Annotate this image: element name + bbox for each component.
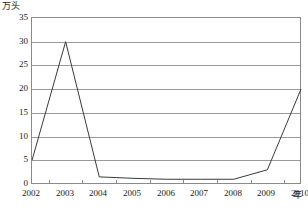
y-axis-tick-label: 35 <box>2 13 28 22</box>
y-axis-tick-labels: 05101520253035 <box>0 17 28 184</box>
x-axis-tick-labels: 200220032004200520062007200820092010 <box>31 188 301 202</box>
y-axis-tick-label: 5 <box>2 155 28 164</box>
y-axis-unit-label: 万头 <box>2 1 20 12</box>
y-axis-tick-label: 25 <box>2 60 28 69</box>
plot-area <box>31 17 301 184</box>
x-axis-unit-label: 年 <box>293 190 302 201</box>
chart-screenshot: 万头 05101520253035 2002200320042005200620… <box>0 0 308 211</box>
y-axis-tick-label: 0 <box>2 179 28 188</box>
line-series <box>32 18 302 185</box>
y-axis-tick-label: 30 <box>2 37 28 46</box>
y-axis-tick-label: 20 <box>2 84 28 93</box>
series-layer <box>32 18 300 183</box>
y-axis-tick-label: 15 <box>2 108 28 117</box>
y-axis-tick-label: 10 <box>2 132 28 141</box>
